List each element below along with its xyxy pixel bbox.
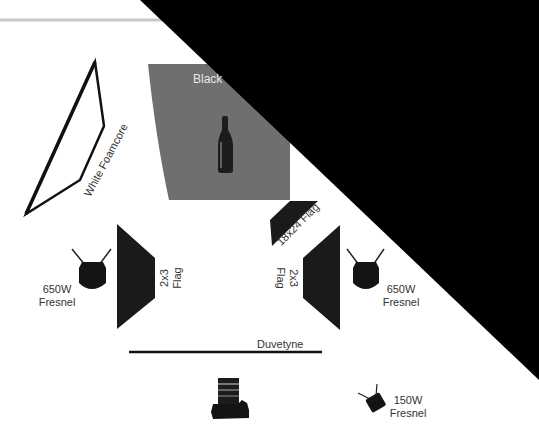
flag-left-label: 2x3 Flag	[158, 260, 184, 296]
fresnel-left-label: 650W Fresnel	[34, 283, 80, 309]
flag-left-label-line1: 2x3	[158, 260, 171, 296]
camera-icon	[211, 378, 249, 419]
fresnel-small-150w-icon	[358, 384, 386, 413]
flag-right-label-line2: Flag	[274, 260, 287, 296]
flag-right-2x3	[303, 225, 340, 330]
duvetyne-label: Duvetyne	[257, 338, 303, 351]
backdrop-label: Black	[193, 73, 222, 86]
lighting-diagram: Black White Foamcore 18x24 Flag 2x3 Flag…	[0, 0, 539, 445]
fresnel-right-label-line2: Fresnel	[378, 296, 424, 309]
flag-right-label: 2x3 Flag	[274, 260, 300, 296]
fresnel-small-label-line1: 150W	[386, 394, 430, 407]
fresnel-right-label: 650W Fresnel	[378, 283, 424, 309]
flag-left-label-line2: Flag	[171, 260, 184, 296]
fresnel-left-label-line1: 650W	[34, 283, 80, 296]
flag-right-label-line1: 2x3	[287, 260, 300, 296]
fresnel-small-label-line2: Fresnel	[386, 407, 430, 420]
fresnel-small-label: 150W Fresnel	[386, 394, 430, 420]
flag-left-2x3	[117, 224, 155, 329]
fresnel-left-label-line2: Fresnel	[34, 296, 80, 309]
fresnel-right-label-line1: 650W	[378, 283, 424, 296]
